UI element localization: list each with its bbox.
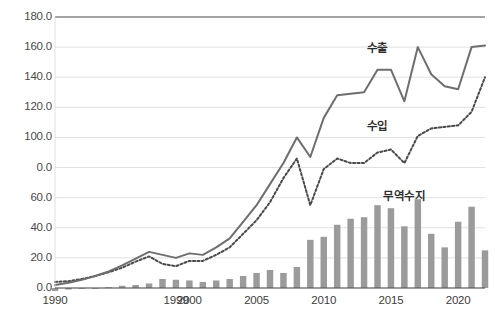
trade-chart: 0.020.040.060.00.0100.0120.0140.0160.018… (0, 0, 495, 320)
y-axis-tick-labels: 0.020.040.060.00.0100.0120.0140.0160.018… (0, 0, 52, 320)
bar (226, 279, 232, 288)
bar (146, 283, 152, 288)
x-tick-label: 2020 (446, 294, 471, 306)
x-tick-label: 2000 (177, 294, 202, 306)
bar (240, 276, 246, 288)
y-tick-label: 0.0 (6, 282, 52, 293)
bar (428, 234, 434, 288)
series-label-수출: 수출 (367, 39, 388, 55)
y-tick-label: 140.0 (6, 71, 52, 82)
y-tick-label: 120.0 (6, 101, 52, 112)
bar (468, 207, 474, 288)
y-tick-label: 40.0 (6, 222, 52, 233)
y-tick-label: 160.0 (6, 41, 52, 52)
bar (280, 273, 286, 288)
series-label-수입: 수입 (367, 117, 388, 133)
x-tick-label: 1990 (43, 294, 68, 306)
bar (401, 226, 407, 288)
bar (455, 222, 461, 288)
bar (267, 270, 273, 288)
bar (213, 280, 219, 288)
balance-bars (52, 199, 488, 291)
x-tick-label: 2005 (244, 294, 269, 306)
x-tick-label: 2010 (311, 294, 336, 306)
bar (347, 219, 353, 288)
y-tick-label: 60.0 (6, 192, 52, 203)
bar (173, 280, 179, 288)
series-label-무역수지: 무역수지 (383, 187, 426, 203)
bar (253, 273, 259, 288)
bar (415, 199, 421, 288)
bar (334, 225, 340, 288)
y-tick-label: 100.0 (6, 131, 52, 142)
bar (294, 267, 300, 288)
bar (482, 250, 488, 288)
bar (374, 205, 380, 288)
y-tick-label: 20.0 (6, 252, 52, 263)
x-tick-label: 2015 (379, 294, 404, 306)
bar (361, 217, 367, 288)
y-tick-label: 180.0 (6, 11, 52, 22)
chart-plot-area (0, 0, 495, 320)
bar (200, 282, 206, 288)
bar (321, 237, 327, 288)
y-tick-label: 0.0 (6, 162, 52, 173)
bar (388, 208, 394, 288)
bar (307, 240, 313, 288)
bar (441, 247, 447, 288)
bar (159, 279, 165, 288)
bar (186, 280, 192, 288)
